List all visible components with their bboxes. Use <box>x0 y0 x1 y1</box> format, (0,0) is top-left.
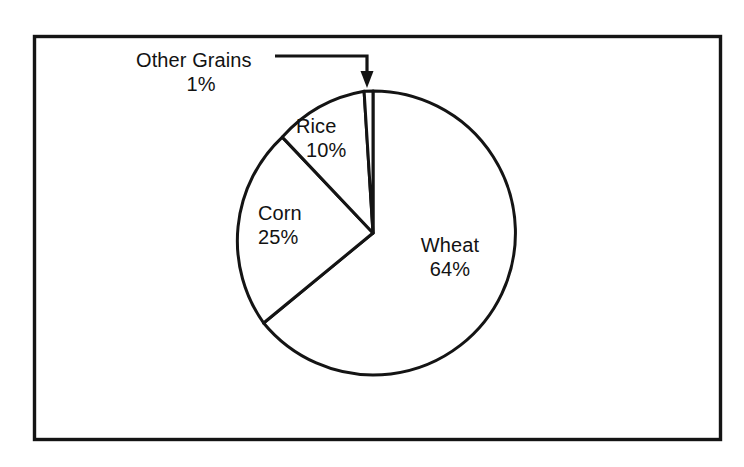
pie-chart-canvas <box>0 0 744 467</box>
pie-label-wheat: Wheat 64% <box>417 233 483 281</box>
pie-label-other-grains-value: 1% <box>136 72 266 96</box>
pie-label-other-grains-name: Other Grains <box>136 48 266 72</box>
pie-label-rice-value: 10% <box>296 138 358 162</box>
pie-label-other-grains: Other Grains 1% <box>136 48 266 96</box>
pie-label-corn: Corn 25% <box>258 201 314 249</box>
pie-label-corn-value: 25% <box>258 225 314 249</box>
pie-label-rice-name: Rice <box>296 114 358 138</box>
pie-label-corn-name: Corn <box>258 201 314 225</box>
pie-label-wheat-value: 64% <box>417 257 483 281</box>
pie-label-wheat-name: Wheat <box>417 233 483 257</box>
arrow-down-icon <box>361 71 374 88</box>
pie-label-rice: Rice 10% <box>296 114 358 162</box>
pie-chart-figure: Other Grains 1% Rice 10% Corn 25% Wheat … <box>0 0 744 467</box>
other-grains-leader-line <box>275 56 367 73</box>
